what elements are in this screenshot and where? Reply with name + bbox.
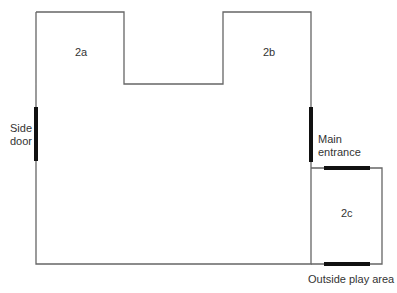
room-2c-label: 2c	[341, 207, 353, 220]
main-entrance-label: Main entrance	[318, 133, 361, 159]
outside-play-area-label: Outside play area	[308, 273, 394, 286]
doors	[36, 107, 370, 264]
room-2b-label: 2b	[263, 46, 275, 59]
room-2a-label: 2a	[75, 46, 87, 59]
side-door-label: Side door	[10, 122, 32, 148]
